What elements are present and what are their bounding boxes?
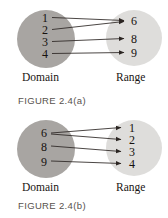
range-label: Range [116,181,145,193]
range-element: 6 [128,15,140,27]
range-label: Range [116,71,145,83]
mapping-diagram-b: 6 8 9 1 2 3 4 Domain Range [0,110,168,182]
domain-element: 4 [39,48,51,60]
mapping-arrows [0,110,168,182]
domain-label: Domain [22,71,59,83]
figure-caption: FIGURE 2.4(a) [18,95,86,106]
domain-element: 6 [38,127,50,139]
mapping-diagram-a: 1 2 3 4 6 8 9 Domain Range [0,0,168,72]
range-element: 8 [128,33,140,45]
domain-label: Domain [22,181,59,193]
range-element: 9 [128,47,140,59]
domain-element: 9 [38,156,50,168]
figure-2-4-a: 1 2 3 4 6 8 9 Domain Range FIGURE 2.4(a) [0,0,168,110]
mapping-arrows [0,0,168,72]
figure-caption: FIGURE 2.4(b) [18,200,86,211]
range-element: 4 [126,158,138,170]
domain-element: 8 [38,141,50,153]
figure-2-4-b: 6 8 9 1 2 3 4 Domain Range FIGURE 2.4(b) [0,110,168,218]
